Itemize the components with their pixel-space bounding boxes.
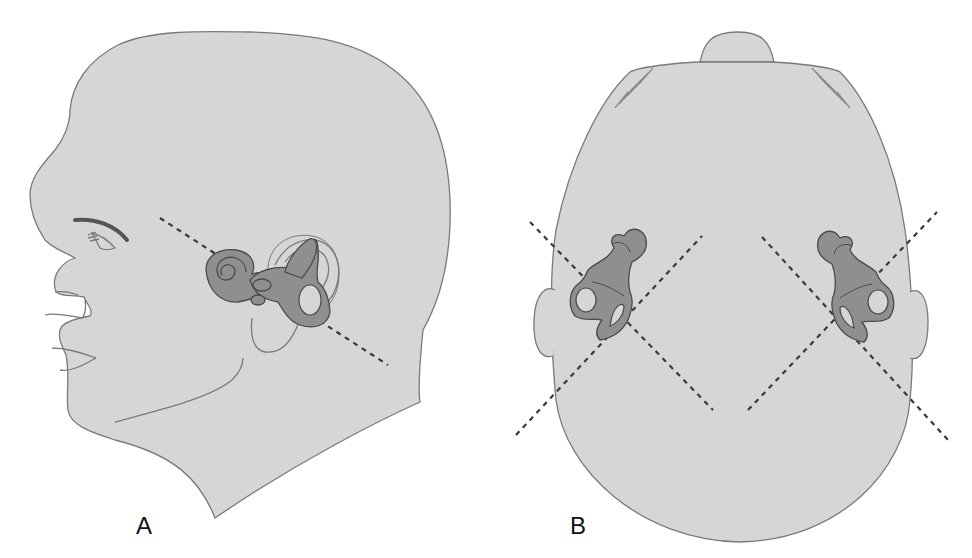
panel-label-b: B bbox=[570, 512, 586, 540]
figure-canvas: .skin { fill: #d6d6d6; stroke: #7a7a7a; … bbox=[0, 0, 972, 558]
lateral-canal-hole bbox=[299, 285, 321, 315]
round-window bbox=[251, 295, 265, 305]
nose-bottom bbox=[45, 300, 86, 318]
nose-top-view bbox=[700, 32, 774, 62]
panel-label-a: A bbox=[136, 512, 152, 540]
panel-b-superior-head bbox=[516, 32, 948, 542]
left-ear-top-view bbox=[534, 289, 555, 357]
left-canal-hole bbox=[576, 288, 596, 312]
right-canal-hole bbox=[868, 290, 888, 314]
panel-a-lateral-head bbox=[30, 32, 450, 519]
oval-window bbox=[253, 279, 271, 291]
right-ear-top-view bbox=[910, 291, 928, 359]
